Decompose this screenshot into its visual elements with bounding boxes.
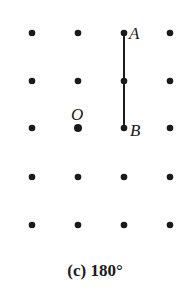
grid-dot bbox=[75, 222, 82, 229]
grid-dot bbox=[29, 125, 36, 132]
grid-dot bbox=[167, 222, 174, 229]
grid-dot bbox=[167, 125, 174, 132]
grid-dot bbox=[74, 124, 82, 132]
label-o: O bbox=[71, 105, 83, 124]
grid-dot bbox=[167, 174, 174, 181]
grid-dot bbox=[167, 78, 174, 85]
grid-dot bbox=[121, 222, 128, 229]
grid-dot bbox=[75, 78, 82, 85]
label-a: A bbox=[128, 24, 140, 43]
dot-grid-diagram: A B O (c) 180° bbox=[0, 0, 191, 299]
grid-dot bbox=[29, 222, 36, 229]
grid-dot bbox=[167, 30, 174, 37]
grid-dot bbox=[75, 174, 82, 181]
grid-dot bbox=[75, 30, 82, 37]
grid-dot bbox=[29, 174, 36, 181]
grid-dot bbox=[29, 78, 36, 85]
grid-dot bbox=[29, 30, 36, 37]
label-b: B bbox=[130, 121, 141, 140]
grid-dot bbox=[121, 174, 128, 181]
caption: (c) 180° bbox=[67, 261, 122, 280]
grid-dots bbox=[29, 30, 174, 229]
